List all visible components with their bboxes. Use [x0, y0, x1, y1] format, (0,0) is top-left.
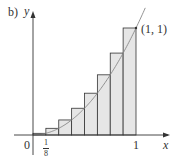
- point-marker: [135, 27, 137, 29]
- x-tick-one-eighth: 1 8: [43, 139, 49, 158]
- y-axis-arrow-icon: [31, 11, 36, 18]
- x-tick-one: 1: [133, 139, 139, 151]
- x-axis-arrow-icon: [163, 133, 170, 138]
- origin-label: 0: [24, 139, 30, 151]
- y-axis-label: y: [24, 5, 29, 17]
- x-axis-label: x: [163, 139, 168, 151]
- frac-numerator: 1: [44, 138, 48, 147]
- rectangle-bar: [110, 53, 123, 135]
- point-label: (1, 1): [141, 23, 167, 35]
- rectangle-bar: [123, 28, 136, 135]
- rectangle-bar: [85, 93, 98, 135]
- rectangles: [33, 28, 136, 135]
- frac-denominator: 8: [44, 149, 48, 158]
- rectangle-bar: [72, 108, 85, 135]
- panel-label: b): [8, 6, 18, 18]
